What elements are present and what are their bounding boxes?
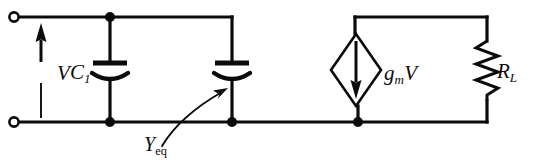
label-gm-v: V (404, 61, 417, 85)
node-bottom-c1 (105, 117, 115, 127)
label-rl-subscript: L (510, 70, 518, 85)
label-dependent-source: gmV (384, 63, 417, 84)
label-equivalent-admittance: Yeq (144, 134, 167, 154)
load-resistor-icon (476, 41, 498, 101)
label-rl-base: R (497, 59, 510, 83)
capacitor-c1-icon (92, 63, 128, 79)
label-load-resistor: RL (497, 61, 517, 82)
label-yeq-base: Y (144, 133, 155, 155)
label-gm-subscript: m (395, 72, 405, 87)
label-capacitor-c1: C1 (70, 62, 91, 83)
label-c1-base: C (70, 60, 84, 84)
dependent-current-source-icon (331, 34, 381, 106)
yeq-pointer-arrow-icon (162, 88, 228, 146)
label-gm-base: g (384, 61, 395, 85)
node-bottom-yeq (227, 117, 237, 127)
label-c1-subscript: 1 (84, 71, 91, 86)
node-top-c1 (105, 12, 115, 22)
input-terminal-bottom-icon (9, 117, 18, 126)
label-yeq-subscript: eq (155, 144, 167, 158)
label-input-voltage: V (57, 63, 70, 84)
node-bottom-source (353, 117, 363, 127)
voltage-arrow-v-icon (36, 23, 47, 118)
capacitor-yeq-icon (214, 63, 250, 79)
circuit-diagram: V C1 Yeq gmV RL (0, 0, 534, 165)
input-terminal-top-icon (9, 12, 18, 21)
